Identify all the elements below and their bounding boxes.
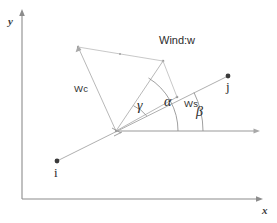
wind-vector-diagram: y x i j Wind:w Wc Ws γ α β bbox=[0, 0, 277, 223]
node-dot-j bbox=[226, 74, 231, 79]
angle-label-alpha: α bbox=[164, 95, 171, 109]
angle-label-gamma: γ bbox=[137, 99, 143, 113]
y-axis-label: y bbox=[8, 16, 13, 27]
node-label-j: j bbox=[226, 80, 230, 93]
origin-dot bbox=[115, 130, 117, 132]
wind-vector-label: Wind:w bbox=[159, 35, 195, 46]
parallelogram-mid-dot bbox=[119, 53, 121, 55]
horizontal-reference bbox=[116, 129, 260, 134]
horizontal-reference-arrowhead bbox=[254, 129, 261, 134]
x-axis-arrowhead bbox=[256, 196, 263, 202]
wind-vector-line bbox=[116, 61, 163, 131]
node-label-i: i bbox=[54, 166, 58, 179]
node-dot-i bbox=[55, 159, 60, 164]
angle-label-beta: β bbox=[196, 105, 203, 119]
parallelogram-side-right bbox=[163, 61, 177, 97]
x-axis-label: x bbox=[262, 205, 268, 216]
y-axis-arrowhead bbox=[19, 9, 25, 16]
origin-tick-b bbox=[114, 132, 122, 136]
crosswind-label: Wc bbox=[74, 84, 88, 94]
wind-vector-group bbox=[116, 60, 164, 131]
